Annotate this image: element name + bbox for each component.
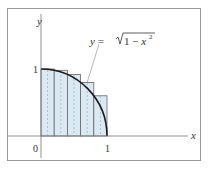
x-axis-label: x	[190, 129, 196, 141]
y-tick-one: 1	[33, 64, 38, 75]
equation-lhs: y =	[89, 35, 104, 47]
y-axis-label: y	[36, 15, 42, 27]
equation-rhs: 1 − x	[124, 35, 146, 47]
origin-label: 0	[33, 143, 38, 154]
equation-exponent: 2	[149, 33, 153, 41]
figure-frame	[8, 9, 201, 161]
riemann-sum-figure: y x 0 1 1 y = 1 − x 2	[0, 0, 214, 169]
x-tick-one: 1	[105, 143, 110, 154]
